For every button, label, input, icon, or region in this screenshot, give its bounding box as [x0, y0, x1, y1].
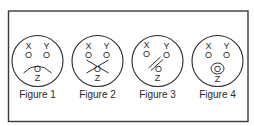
figures-diagram: X O Y O O Z Figure 1 X O Y O O Z Figure … [0, 0, 254, 126]
point-y-o: O [43, 50, 50, 60]
point-y-o: O [223, 50, 230, 60]
figure-3: X O Y O O Z [132, 36, 183, 87]
point-y-o: O [163, 50, 170, 60]
point-x-o: O [143, 49, 150, 59]
point-x-o: O [25, 50, 32, 60]
caption-figure-2: Figure 2 [79, 89, 116, 100]
label-z: Z [155, 73, 161, 83]
caption-figure-1: Figure 1 [19, 89, 56, 100]
figure-4: X O Y O O Z [192, 36, 243, 87]
figure-1: X O Y O O Z [12, 36, 63, 87]
caption-figure-4: Figure 4 [199, 89, 236, 100]
label-z: Z [215, 74, 221, 84]
point-y-o: O [103, 50, 110, 60]
figure-2: X O Y O O Z [72, 36, 123, 87]
point-z-o: O [214, 64, 221, 74]
caption-figure-3: Figure 3 [139, 89, 176, 100]
label-z: Z [95, 73, 101, 83]
point-x-o: O [205, 50, 212, 60]
label-z: Z [35, 73, 41, 83]
point-x-o: O [85, 50, 92, 60]
